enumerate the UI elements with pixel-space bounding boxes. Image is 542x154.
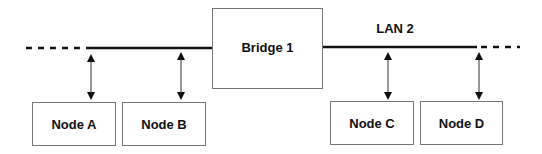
- node-d-label: Node D: [420, 116, 503, 131]
- node-b-label: Node B: [122, 117, 206, 132]
- node-a-label: Node A: [32, 117, 116, 132]
- lan-label: LAN 2: [370, 21, 420, 36]
- node-c-label: Node C: [330, 116, 414, 131]
- bridge-label: Bridge 1: [212, 40, 323, 55]
